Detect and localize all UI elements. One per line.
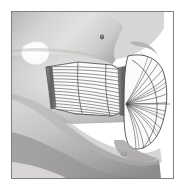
ear-highlight [22,42,49,65]
masseter-illustration [12,12,173,178]
anatomy-figure [0,0,187,193]
landmark-dot-upper [100,35,104,40]
figure-frame [11,11,174,179]
